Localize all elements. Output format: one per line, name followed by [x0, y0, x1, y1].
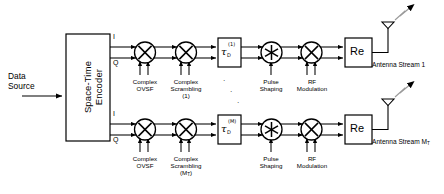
chain-2-scrambling-label: Complex Scrambling (MT) [158, 155, 214, 177]
chain-1-scrambling-multiplier [176, 42, 197, 63]
chain-2-pulse-shaping-operator [261, 119, 282, 140]
chain-2-port-q: Q [113, 136, 118, 143]
diagram-vector-layer [0, 0, 444, 194]
chain-2-scrambling-line2: Scrambling [158, 162, 214, 169]
chain-1-delay-sup: (1) [228, 42, 235, 47]
space-time-encoder-label: Space-Time Encoder [82, 37, 104, 137]
data-source-line2: Source [8, 81, 52, 91]
chain-1-delay-tau: τ [221, 47, 227, 57]
diagram-canvas: Data Source Space-Time Encoder I Q I Q τ… [0, 0, 444, 194]
data-source-line1: Data [8, 71, 52, 81]
chain-1-port-q: Q [113, 59, 118, 66]
chain-1-rf-label: RF Modulation [285, 78, 339, 92]
chain-2-scrambling-line3-sub: T [187, 172, 190, 177]
chain-1-radiation-arrow [395, 6, 412, 20]
chain-2-ovsf-multiplier [135, 119, 156, 140]
chain-2-scrambling-line3: (MT) [158, 169, 214, 177]
chain-2-delay-label: τ D (M) [218, 115, 241, 144]
chain-2-radiation-arrow [395, 83, 412, 97]
encoder-line2: Encoder [93, 69, 104, 105]
chain-2-scrambling-line3-close: ) [190, 169, 192, 176]
chain-1-real-label: Re [350, 46, 364, 57]
chain-1-rf-multiplier [301, 42, 322, 63]
chain-2-rf-line1: RF [285, 155, 339, 162]
chain-2-real-label: Re [350, 123, 364, 134]
chain-1-port-i: I [113, 33, 115, 40]
encoder-line1: Space-Time [82, 61, 93, 113]
chain-1-scrambling-line1: Complex [158, 78, 214, 85]
chain-2-scrambling-multiplier [176, 119, 197, 140]
chain-2-delay-sub: D [227, 130, 231, 135]
chain-1-rf-line2: Modulation [285, 85, 339, 92]
chain-2-rf-multiplier [301, 119, 322, 140]
chain-1-scrambling-line2: Scrambling [158, 85, 214, 92]
chain-2-rf-label: RF Modulation [285, 155, 339, 169]
chain-1-delay-sub: D [227, 53, 231, 58]
chain-1-antenna-stream-label: Antenna Stream 1 [372, 61, 425, 69]
chain-1-antenna-feed [372, 28, 388, 53]
chain-1-antenna-icon [382, 22, 394, 29]
chain-2-port-i: I [113, 110, 115, 117]
chain-2-antenna-stream-label: Antenna Stream MT [372, 138, 430, 147]
data-source-label: Data Source [8, 71, 52, 91]
chain-2-delay-tau: τ [221, 124, 227, 134]
chain-1-rf-line1: RF [285, 78, 339, 85]
chain-continuation-dot-3: · [237, 99, 239, 106]
chain-2-scrambling-line1: Complex [158, 155, 214, 162]
chain-1-delay-label: τ D (1) [218, 38, 241, 67]
chain-2-rf-line2: Modulation [285, 162, 339, 169]
chain-1-scrambling-label: Complex Scrambling (1) [158, 78, 214, 99]
chain-1-scrambling-line3: (1) [158, 92, 214, 99]
chain-continuation-dot-2: · [230, 88, 232, 95]
chain-1-ovsf-multiplier [135, 42, 156, 63]
chain-2-antenna-stream-subscript: T [427, 141, 430, 146]
chain-2-antenna-feed [372, 105, 388, 130]
chain-1-antenna-stream-text: Antenna Stream 1 [372, 61, 425, 68]
chain-2-delay-sup: (M) [228, 119, 236, 124]
chain-2-antenna-stream-text: Antenna Stream M [372, 138, 427, 145]
chain-1-pulse-shaping-operator [261, 42, 282, 63]
chain-continuation-dot-1: · [223, 77, 225, 84]
chain-2-antenna-icon [382, 99, 394, 106]
